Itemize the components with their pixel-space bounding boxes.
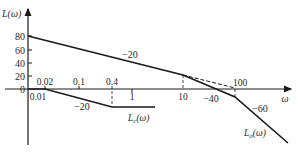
lc-curve-label: Lc(ω) xyxy=(127,113,149,125)
slope-label-l0-minus40: −40 xyxy=(203,93,219,104)
l0-curve-label: Lo(ω) xyxy=(243,128,266,140)
y-tick-0: 0 xyxy=(20,84,25,95)
x-tick-10: 10 xyxy=(178,92,188,102)
x-tick-100: 100 xyxy=(233,78,248,88)
y-axis-label: L(ω) xyxy=(1,8,22,20)
x-tick-1: 1 xyxy=(130,92,135,102)
x-tick-0.4: 0.4 xyxy=(106,77,118,87)
x-tick-0.02: 0.02 xyxy=(37,77,54,87)
y-tick-80: 80 xyxy=(15,31,25,42)
y-tick-20: 20 xyxy=(15,71,25,82)
y-tick-60: 60 xyxy=(15,45,25,56)
lc-curve xyxy=(28,89,155,107)
y-tick-40: 40 xyxy=(15,58,25,69)
slope-label-l0-minus60: −60 xyxy=(252,103,268,114)
slope-label-lc-minus20: −20 xyxy=(74,101,90,112)
x-tick-0.01: 0.01 xyxy=(30,92,47,102)
x-tick-0.1: 0.1 xyxy=(73,77,85,87)
bode-diagram: L(ω) 80 60 40 20 0 0.02 0.1 0.4 100 0.01… xyxy=(0,0,298,153)
x-axis-label: ω xyxy=(281,93,288,104)
slope-label-l0-minus20: −20 xyxy=(122,49,138,60)
